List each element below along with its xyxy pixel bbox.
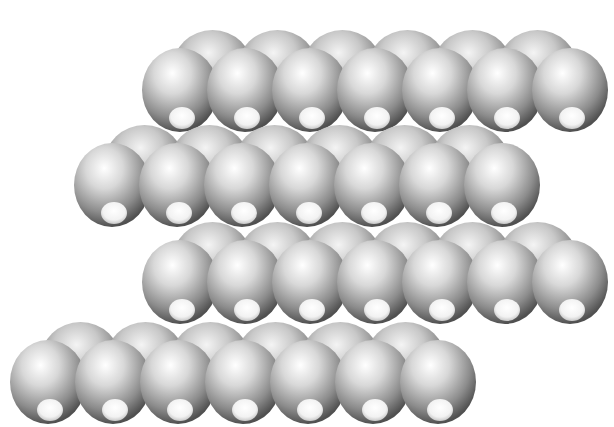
hydrogen-highlight [427, 399, 453, 421]
hydrogen-highlight [234, 299, 260, 321]
hydrogen-highlight [559, 107, 585, 129]
hydrogen-highlight [429, 299, 455, 321]
hydrogen-highlight [234, 107, 260, 129]
hydrogen-highlight [494, 107, 520, 129]
hydrogen-highlight [102, 399, 128, 421]
hydrogen-highlight [231, 202, 257, 224]
hydrogen-highlight [361, 202, 387, 224]
hydrogen-highlight [362, 399, 388, 421]
hydrogen-highlight [169, 107, 195, 129]
hydrogen-highlight [299, 107, 325, 129]
hydrogen-highlight [167, 399, 193, 421]
hydrogen-highlight [559, 299, 585, 321]
chain-3 [142, 222, 608, 324]
hydrogen-highlight [101, 202, 127, 224]
hydrogen-highlight [37, 399, 63, 421]
hydrogen-highlight [491, 202, 517, 224]
hydrogen-highlight [364, 107, 390, 129]
molecular-model [0, 0, 614, 427]
hydrogen-highlight [166, 202, 192, 224]
chain-1 [142, 30, 608, 132]
hydrogen-highlight [296, 202, 322, 224]
hydrogen-highlight [494, 299, 520, 321]
chain-2 [74, 125, 540, 227]
hydrogen-highlight [169, 299, 195, 321]
hydrogen-highlight [299, 299, 325, 321]
hydrogen-highlight [426, 202, 452, 224]
hydrogen-highlight [429, 107, 455, 129]
hydrogen-highlight [297, 399, 323, 421]
chains-group [10, 30, 608, 424]
hydrogen-highlight [364, 299, 390, 321]
hydrogen-highlight [232, 399, 258, 421]
chain-4 [10, 322, 476, 424]
